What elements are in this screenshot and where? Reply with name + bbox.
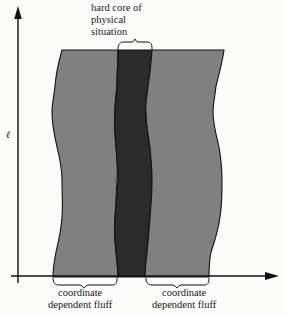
hard-core-label: hard core of physical situation <box>91 2 142 37</box>
vertical-axis-arrowhead <box>14 6 22 19</box>
right-fluff-label-line-2: dependent fluff <box>152 299 216 311</box>
band-hard-core <box>115 50 152 277</box>
vertical-axis-label: ℓ <box>6 129 10 140</box>
band-left-fluff <box>52 50 118 277</box>
hard-core-label-line-3: situation <box>91 26 142 38</box>
right-fluff-label-line-1: coordinate <box>152 287 216 299</box>
hard-core-label-line-2: physical <box>91 14 142 26</box>
horizontal-axis-arrowhead <box>265 272 279 280</box>
left-fluff-label: coordinate dependent fluff <box>48 287 112 311</box>
left-fluff-label-line-1: coordinate <box>48 287 112 299</box>
hard-core-label-line-1: hard core of <box>91 2 142 14</box>
right-fluff-label: coordinate dependent fluff <box>152 287 216 311</box>
left-fluff-label-line-2: dependent fluff <box>48 299 112 311</box>
band-right-fluff <box>145 50 224 277</box>
diagram-canvas <box>0 0 285 316</box>
core-brace <box>118 39 152 49</box>
physics-fluff-diagram: hard core of physical situation coordina… <box>0 0 285 316</box>
